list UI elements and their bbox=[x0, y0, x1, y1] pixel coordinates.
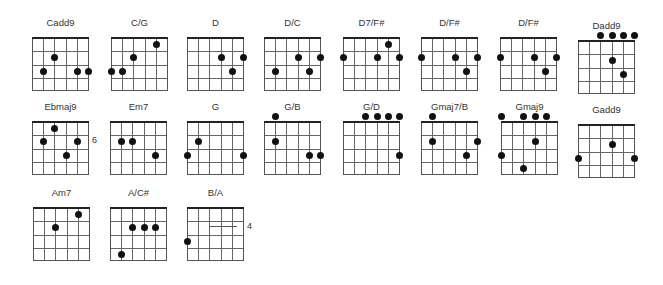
chord-name: D/F# bbox=[421, 17, 478, 28]
nut bbox=[578, 40, 635, 42]
nut bbox=[578, 124, 635, 126]
fretboard-grid bbox=[32, 38, 89, 91]
finger-dot bbox=[184, 152, 191, 159]
open-string-dot bbox=[385, 113, 392, 120]
finger-dot bbox=[385, 41, 392, 48]
finger-dot bbox=[452, 54, 459, 61]
fretboard-grid bbox=[264, 38, 321, 91]
nut bbox=[421, 37, 478, 39]
fretboard-grid bbox=[421, 122, 478, 175]
chord-diagram: Dadd9 bbox=[578, 20, 648, 105]
nut bbox=[187, 37, 244, 39]
chord-diagram: Ebmaj96 bbox=[32, 101, 102, 186]
finger-dot bbox=[40, 68, 47, 75]
finger-dot bbox=[631, 155, 638, 162]
finger-dot bbox=[153, 41, 160, 48]
finger-dot bbox=[306, 68, 313, 75]
open-string-dot bbox=[620, 32, 627, 39]
finger-dot bbox=[75, 211, 82, 218]
finger-dot bbox=[306, 152, 313, 159]
open-string-dot bbox=[532, 113, 539, 120]
finger-dot bbox=[575, 155, 582, 162]
chord-diagram: C/G bbox=[111, 17, 181, 102]
chord-diagram: G/D bbox=[343, 101, 413, 186]
chord-diagram: Cadd9 bbox=[32, 17, 102, 102]
chord-diagram: Gmaj9 bbox=[501, 101, 571, 186]
chord-name: D/F# bbox=[500, 17, 557, 28]
finger-dot bbox=[609, 57, 616, 64]
chord-name: G/B bbox=[264, 101, 321, 112]
fretboard-grid bbox=[578, 125, 635, 178]
finger-dot bbox=[498, 152, 505, 159]
chord-diagram: B/A4 bbox=[187, 187, 257, 272]
fret-number-label: 6 bbox=[92, 135, 97, 145]
finger-dot bbox=[463, 152, 470, 159]
finger-dot bbox=[620, 71, 627, 78]
nut bbox=[110, 121, 167, 123]
fretboard-grid bbox=[264, 122, 321, 175]
chord-diagram: D/F# bbox=[500, 17, 570, 102]
chord-diagram: D/F# bbox=[421, 17, 491, 102]
fretboard-grid bbox=[421, 38, 478, 91]
finger-dot bbox=[63, 152, 70, 159]
fretboard-grid bbox=[110, 122, 167, 175]
finger-dot bbox=[272, 68, 279, 75]
finger-dot bbox=[119, 68, 126, 75]
finger-dot bbox=[240, 152, 247, 159]
chord-name: C/G bbox=[111, 17, 168, 28]
chord-diagram: D7/F# bbox=[343, 17, 413, 102]
fretboard-grid bbox=[343, 122, 400, 175]
chord-name: Dadd9 bbox=[578, 20, 635, 31]
chord-diagram: A/C# bbox=[110, 187, 180, 272]
fretboard-grid bbox=[187, 122, 244, 175]
fretboard-grid bbox=[187, 38, 244, 91]
nut bbox=[110, 207, 167, 209]
finger-dot bbox=[141, 224, 148, 231]
finger-dot bbox=[474, 54, 481, 61]
chord-name: Am7 bbox=[33, 187, 90, 198]
chord-diagram: G bbox=[187, 101, 257, 186]
finger-dot bbox=[396, 54, 403, 61]
open-string-dot bbox=[362, 113, 369, 120]
open-string-dot bbox=[429, 113, 436, 120]
finger-dot bbox=[152, 152, 159, 159]
chord-diagram: D bbox=[187, 17, 257, 102]
finger-dot bbox=[184, 238, 191, 245]
chord-diagram: G/B bbox=[264, 101, 334, 186]
nut bbox=[501, 121, 558, 123]
nut bbox=[32, 121, 89, 123]
chord-name: Cadd9 bbox=[32, 17, 89, 28]
finger-dot bbox=[553, 54, 560, 61]
chord-name: G/D bbox=[343, 101, 400, 112]
fret-number-label: 4 bbox=[247, 221, 252, 231]
finger-dot bbox=[218, 54, 225, 61]
chord-diagram: Am7 bbox=[33, 187, 103, 272]
chord-name: D/C bbox=[264, 17, 321, 28]
chord-name: A/C# bbox=[110, 187, 167, 198]
nut bbox=[187, 121, 244, 123]
finger-dot bbox=[532, 138, 539, 145]
fretboard-grid bbox=[500, 38, 557, 91]
finger-dot bbox=[374, 54, 381, 61]
chord-name: Em7 bbox=[110, 101, 167, 112]
open-string-dot bbox=[609, 32, 616, 39]
finger-dot bbox=[108, 68, 115, 75]
chord-diagram: D/C bbox=[264, 17, 334, 102]
chord-diagram: Gadd9 bbox=[578, 104, 648, 189]
finger-dot bbox=[542, 68, 549, 75]
fretboard-grid bbox=[32, 122, 89, 175]
chord-name: Gadd9 bbox=[578, 104, 635, 115]
finger-dot bbox=[74, 68, 81, 75]
finger-dot bbox=[317, 152, 324, 159]
finger-dot bbox=[118, 251, 125, 258]
fretboard-grid bbox=[501, 122, 558, 175]
open-string-dot bbox=[520, 113, 527, 120]
open-string-dot bbox=[396, 113, 403, 120]
chord-diagram: Em7 bbox=[110, 101, 180, 186]
open-string-dot bbox=[543, 113, 550, 120]
nut bbox=[421, 121, 478, 123]
nut bbox=[500, 37, 557, 39]
nut bbox=[187, 207, 244, 209]
chord-name: B/A bbox=[187, 187, 244, 198]
barre-line bbox=[209, 226, 237, 227]
